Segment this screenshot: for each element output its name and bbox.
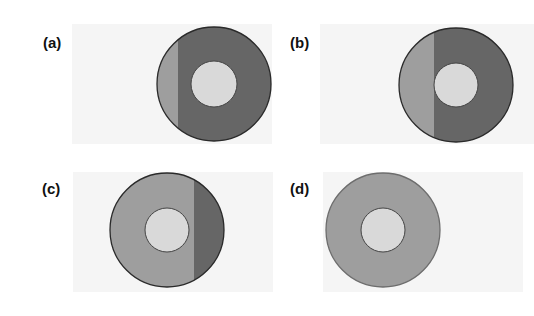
inner-disc (191, 61, 237, 107)
panel-label-a: (a) (43, 34, 61, 51)
segment-right (194, 173, 224, 287)
inner-disc (434, 63, 478, 107)
donut-a (157, 27, 271, 141)
panel-label-d: (d) (290, 180, 309, 197)
donut-c (110, 173, 224, 287)
donut-diagrams (0, 0, 534, 316)
inner-disc (361, 208, 405, 252)
donut-d (326, 173, 440, 287)
donut-b (399, 28, 513, 142)
inner-disc (145, 208, 189, 252)
panel-label-b: (b) (290, 34, 309, 51)
panel-label-c: (c) (42, 180, 60, 197)
